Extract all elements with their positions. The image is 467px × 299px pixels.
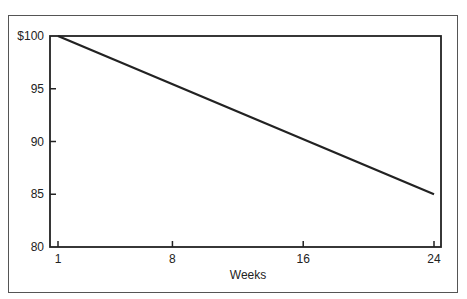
y-tick-label: $100 [17, 29, 44, 43]
x-tick-label: 1 [55, 252, 62, 266]
line-chart: 80859095$100181624Weeks [0, 0, 467, 299]
x-tick-label: 8 [169, 252, 176, 266]
y-tick-label: 90 [31, 135, 45, 149]
x-axis-label: Weeks [230, 268, 266, 282]
y-tick-label: 85 [31, 187, 45, 201]
plot-area [50, 36, 441, 247]
x-tick-label: 16 [297, 252, 311, 266]
data-line [58, 36, 434, 194]
y-tick-label: 95 [31, 82, 45, 96]
x-tick-label: 24 [427, 252, 441, 266]
y-tick-label: 80 [31, 240, 45, 254]
